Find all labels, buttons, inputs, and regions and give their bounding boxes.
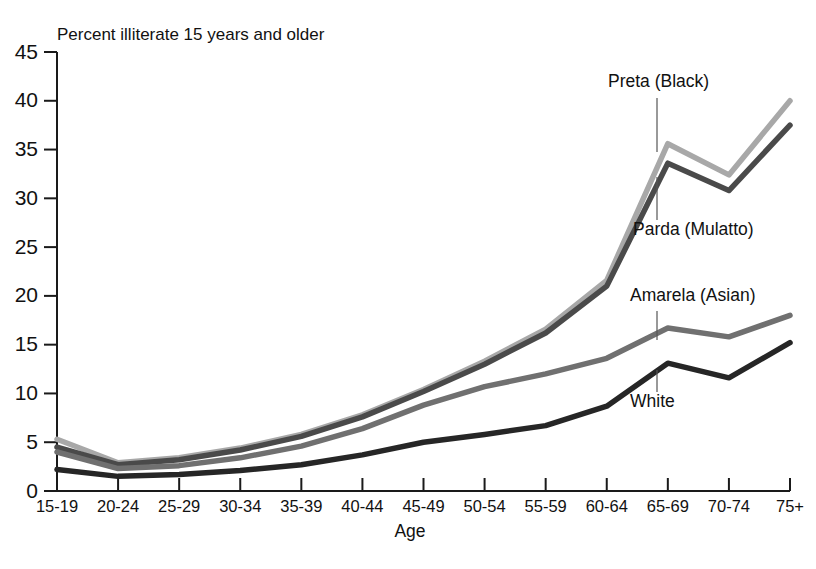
x-axis-title: Age	[394, 521, 425, 541]
x-axis-tick-label: 70-74	[708, 497, 750, 515]
y-axis-tick-label: 30	[15, 186, 38, 209]
x-axis-tick-label: 45-49	[402, 497, 444, 515]
y-axis-tick-label: 40	[15, 88, 38, 111]
y-axis-tick-label: 45	[15, 40, 38, 63]
x-axis-tick-label: 40-44	[341, 497, 383, 515]
x-axis-tick-label: 55-59	[525, 497, 567, 515]
series-label-parda-mulatto: Parda (Mulatto)	[633, 219, 754, 239]
y-axis-tick-label: 25	[15, 235, 38, 258]
x-axis-tick-label: 25-29	[158, 497, 200, 515]
illiteracy-by-age-line-chart: Percent illiterate 15 years and older 05…	[0, 0, 816, 569]
chart-title: Percent illiterate 15 years and older	[57, 25, 325, 44]
x-axis: 15-1920-2425-2930-3435-3940-4445-4950-54…	[36, 478, 804, 515]
series-label-amarela-asian: Amarela (Asian)	[630, 285, 755, 305]
x-axis-tick-label: 30-34	[219, 497, 261, 515]
x-axis-tick-label: 15-19	[36, 497, 78, 515]
series-label-preta-black: Preta (Black)	[608, 71, 709, 91]
y-axis-tick-label: 20	[15, 283, 38, 306]
x-axis-tick-label: 20-24	[97, 497, 139, 515]
y-axis-tick-label: 15	[15, 332, 38, 355]
x-axis-tick-label: 65-69	[647, 497, 689, 515]
y-axis: 051015202530354045	[15, 40, 57, 502]
y-axis-tick-label: 10	[15, 381, 38, 404]
y-axis-tick-label: 5	[26, 430, 38, 453]
series-label-white: White	[630, 391, 675, 411]
x-axis-tick-label: 50-54	[463, 497, 505, 515]
series-line-preta-black	[57, 101, 790, 463]
chart-title-group: Percent illiterate 15 years and older	[57, 25, 325, 44]
x-axis-title-group: Age	[394, 521, 425, 541]
chart-container: Percent illiterate 15 years and older 05…	[0, 0, 816, 569]
y-axis-tick-label: 35	[15, 137, 38, 160]
x-axis-tick-label: 35-39	[280, 497, 322, 515]
x-axis-tick-label: 75+	[776, 497, 804, 515]
x-axis-tick-label: 60-64	[586, 497, 628, 515]
